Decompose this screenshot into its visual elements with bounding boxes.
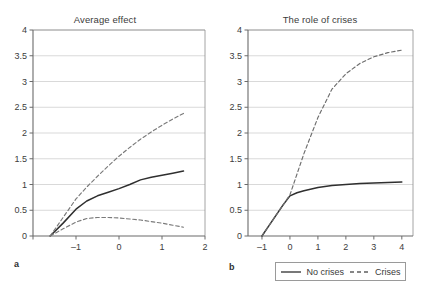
svg-text:3: 3: [371, 242, 376, 252]
legend-label-no-crises: No crises: [306, 267, 344, 277]
legend-solid-line-icon: [280, 268, 302, 276]
svg-text:1: 1: [315, 242, 320, 252]
panel-a: Average effect 00.511.522.533.54–1012 a: [0, 0, 212, 290]
svg-text:2: 2: [202, 242, 207, 252]
panel-a-label: a: [14, 259, 19, 269]
svg-text:2: 2: [343, 242, 348, 252]
legend-dashed-line-icon: [349, 268, 371, 276]
series-line: [50, 171, 183, 236]
svg-text:4: 4: [237, 25, 242, 35]
series-line: [50, 217, 183, 236]
svg-text:3.5: 3.5: [14, 51, 27, 61]
svg-text:1: 1: [237, 180, 242, 190]
svg-text:1.5: 1.5: [229, 154, 242, 164]
legend-label-crises: Crises: [375, 267, 401, 277]
svg-text:3: 3: [237, 77, 242, 87]
svg-text:2: 2: [237, 128, 242, 138]
svg-text:4: 4: [22, 25, 27, 35]
panel-b-label: b: [229, 262, 235, 272]
panel-b: The role of crises 00.511.522.533.54–101…: [213, 0, 425, 290]
svg-text:0.5: 0.5: [229, 205, 242, 215]
svg-text:1.5: 1.5: [14, 154, 27, 164]
svg-text:4: 4: [399, 242, 404, 252]
panel-a-plot: 00.511.522.533.54–1012: [0, 0, 212, 290]
svg-text:0: 0: [237, 231, 242, 241]
svg-text:0: 0: [22, 231, 27, 241]
legend: No crises Crises: [275, 262, 406, 281]
svg-text:1: 1: [159, 242, 164, 252]
svg-text:2: 2: [22, 128, 27, 138]
figure-container: Average effect 00.511.522.533.54–1012 a …: [0, 0, 425, 290]
svg-text:0: 0: [287, 242, 292, 252]
legend-entry-no-crises: No crises: [280, 267, 344, 277]
svg-text:2.5: 2.5: [229, 102, 242, 112]
svg-text:–1: –1: [71, 242, 81, 252]
svg-text:3: 3: [22, 77, 27, 87]
svg-text:0: 0: [116, 242, 121, 252]
svg-text:3.5: 3.5: [229, 51, 242, 61]
legend-entry-crises: Crises: [349, 267, 401, 277]
series-line: [262, 50, 402, 236]
svg-text:0.5: 0.5: [14, 205, 27, 215]
svg-text:2.5: 2.5: [14, 102, 27, 112]
svg-text:1: 1: [22, 180, 27, 190]
panel-b-plot: 00.511.522.533.54–101234: [213, 0, 425, 290]
svg-text:–1: –1: [257, 242, 267, 252]
series-line: [262, 182, 402, 236]
